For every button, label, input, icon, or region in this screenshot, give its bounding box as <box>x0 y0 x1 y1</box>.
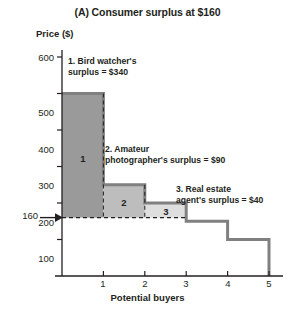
consumer-surplus-figure: (A) Consumer surplus at $160 Price ($) P… <box>0 0 295 313</box>
annotation-bird-watcher: 1. Bird watcher's surplus = $340 <box>68 56 136 78</box>
region-1-number: 1 <box>80 153 85 164</box>
region-2-number: 2 <box>121 197 126 208</box>
region-3-number: 3 <box>163 206 168 217</box>
annotation-real-estate-agent: 3. Real estate agent's surplus = $40 <box>176 184 263 206</box>
annotation-photographer: 2. Amateur photographer's surplus = $90 <box>105 144 225 166</box>
annotation-3-line-2: agent's surplus = $40 <box>176 195 263 206</box>
annotation-2-line-2: photographer's surplus = $90 <box>105 155 225 166</box>
annotation-1-line-1: 1. Bird watcher's <box>68 56 136 67</box>
annotation-1-line-2: surplus = $340 <box>68 67 136 78</box>
annotation-2-line-1: 2. Amateur <box>105 144 225 155</box>
annotation-3-line-1: 3. Real estate <box>176 184 263 195</box>
